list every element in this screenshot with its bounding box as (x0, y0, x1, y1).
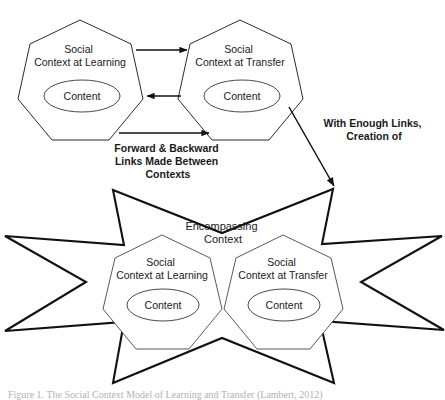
links-made-between-contexts-label: Forward & Backward Links Made Between Co… (114, 142, 221, 180)
top-right-content-label: Content (224, 90, 261, 102)
diagram-figure: Social Context at Learning Content Socia… (0, 0, 445, 400)
top-left-content-label: Content (64, 90, 101, 102)
with-enough-links-label: With Enough Links, Creation of (324, 117, 425, 142)
diagram-root: Social Context at Learning Content Socia… (0, 0, 445, 400)
bottom-left-content-label: Content (145, 299, 182, 311)
figure-caption-strip: Figure 1. The Social Context Model of Le… (0, 388, 445, 400)
encompassing-context-star (5, 189, 444, 383)
figure-caption: Figure 1. The Social Context Model of Le… (8, 389, 322, 400)
bottom-right-content-label: Content (266, 299, 303, 311)
